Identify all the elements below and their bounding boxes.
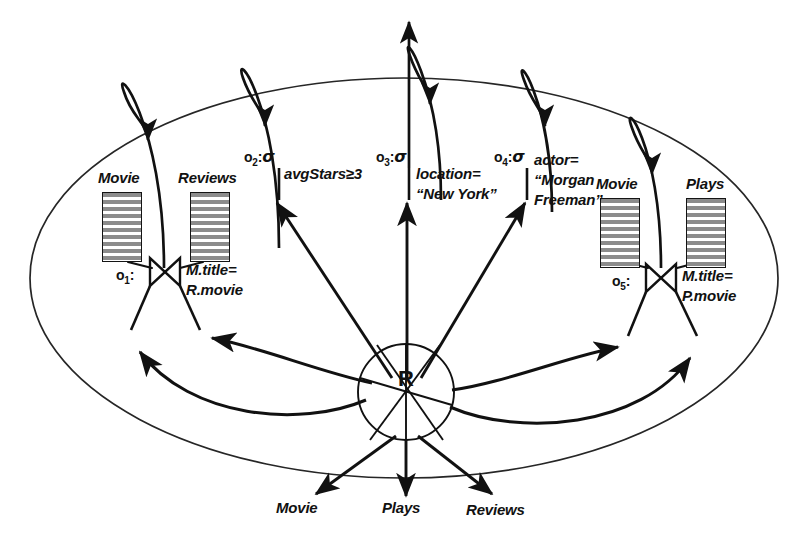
operator-condition-o5-line1: M.title= bbox=[682, 268, 733, 284]
operator-condition-o4-line3: Freeman” bbox=[534, 192, 602, 208]
operator-id-o4: o4:σ bbox=[494, 148, 524, 169]
operator-id-o1-colon: : bbox=[130, 267, 134, 283]
system-boundary-ellipse bbox=[30, 78, 778, 478]
operator-condition-o3-line2: “New York” bbox=[416, 186, 497, 202]
operator-id-o3: o3:σ bbox=[376, 148, 406, 169]
operator-condition-o4-line1: actor= bbox=[534, 152, 578, 168]
relation-icon-movie-right bbox=[600, 198, 640, 268]
operator-condition-o2-line1: avgStars≥3 bbox=[284, 166, 362, 182]
mediator-hub-label: R bbox=[398, 366, 414, 392]
sigma-icon-o4: σ bbox=[512, 147, 524, 166]
operator-id-o5-colon: : bbox=[626, 273, 630, 289]
operator-id-o1: o1: bbox=[116, 268, 134, 287]
hub-to-join-edges bbox=[140, 338, 690, 423]
operator-condition-o3-line1: location= bbox=[416, 166, 480, 182]
relation-label-plays-right: Plays bbox=[686, 176, 724, 192]
diagram-canvas: Movie Reviews Movie Plays o1: M.title= R… bbox=[0, 0, 804, 544]
hub-to-operator-edges bbox=[277, 203, 525, 378]
output-label-plays: Plays bbox=[382, 500, 420, 516]
operator-condition-o4-line2: “Morgan bbox=[534, 172, 594, 188]
relation-icon-reviews-left bbox=[190, 192, 230, 262]
operator-id-o5: o5: bbox=[612, 274, 630, 293]
output-label-reviews: Reviews bbox=[466, 502, 525, 518]
relation-icon-movie-left bbox=[102, 192, 142, 262]
output-label-movie: Movie bbox=[276, 500, 318, 516]
relation-label-reviews-left: Reviews bbox=[178, 170, 237, 186]
relation-label-movie-left: Movie bbox=[98, 170, 140, 186]
sigma-icon-o3: σ bbox=[394, 147, 406, 166]
relation-label-movie-right: Movie bbox=[596, 176, 638, 192]
relation-icon-plays-right bbox=[686, 198, 726, 268]
operator-condition-o1-line2: R.movie bbox=[186, 282, 243, 298]
join-symbol-o5 bbox=[646, 264, 676, 292]
operator-condition-o1-line1: M.title= bbox=[186, 262, 237, 278]
operator-id-o2: o2:σ bbox=[244, 148, 274, 169]
operator-condition-o5-line2: P.movie bbox=[682, 288, 736, 304]
output-edges bbox=[316, 436, 492, 496]
hub-internal-spokes bbox=[360, 344, 452, 440]
sigma-icon-o2: σ bbox=[262, 147, 274, 166]
